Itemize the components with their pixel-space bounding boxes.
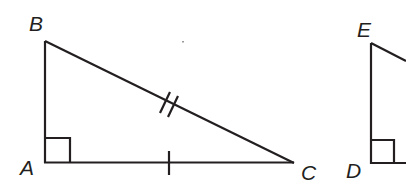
- vertex-label-b: B: [29, 13, 43, 34]
- segment-ef: [371, 43, 406, 61]
- stray-dot: [182, 41, 184, 43]
- right-angle-marker-a: [45, 138, 70, 163]
- diagram-canvas: B A C E D: [0, 0, 406, 194]
- vertex-label-e: E: [357, 19, 371, 40]
- segment-bc: [45, 41, 294, 163]
- vertex-label-c: C: [301, 162, 316, 183]
- right-angle-marker-d: [371, 140, 394, 163]
- vertex-label-d: D: [346, 160, 361, 181]
- vertex-label-a: A: [20, 157, 34, 178]
